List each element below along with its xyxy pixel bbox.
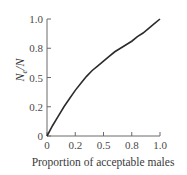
x-tick-label: 1.0 (153, 139, 167, 151)
y-tick-label: 0.8 (29, 42, 43, 54)
y-axis: 00.20.50.81.0 (29, 13, 51, 142)
x-axis: 00.20.50.81.0 (44, 132, 167, 151)
y-tick-label: 0.2 (29, 101, 43, 113)
x-axis-title: Proportion of acceptable males (32, 156, 175, 169)
x-tick-label: 0.8 (125, 139, 139, 151)
x-tick-label: 0.5 (97, 139, 111, 151)
x-tick-label: 0.2 (68, 139, 82, 151)
data-curve (47, 19, 160, 136)
x-tick-label: 0 (44, 139, 50, 151)
chart: 00.20.50.81.0 00.20.50.81.0 Proportion o… (0, 0, 187, 175)
y-tick-label: 0.5 (29, 72, 43, 84)
y-tick-label: 1.0 (29, 13, 43, 25)
y-tick-label: 0 (38, 130, 44, 142)
y-axis-title: Ne/N (13, 55, 29, 85)
